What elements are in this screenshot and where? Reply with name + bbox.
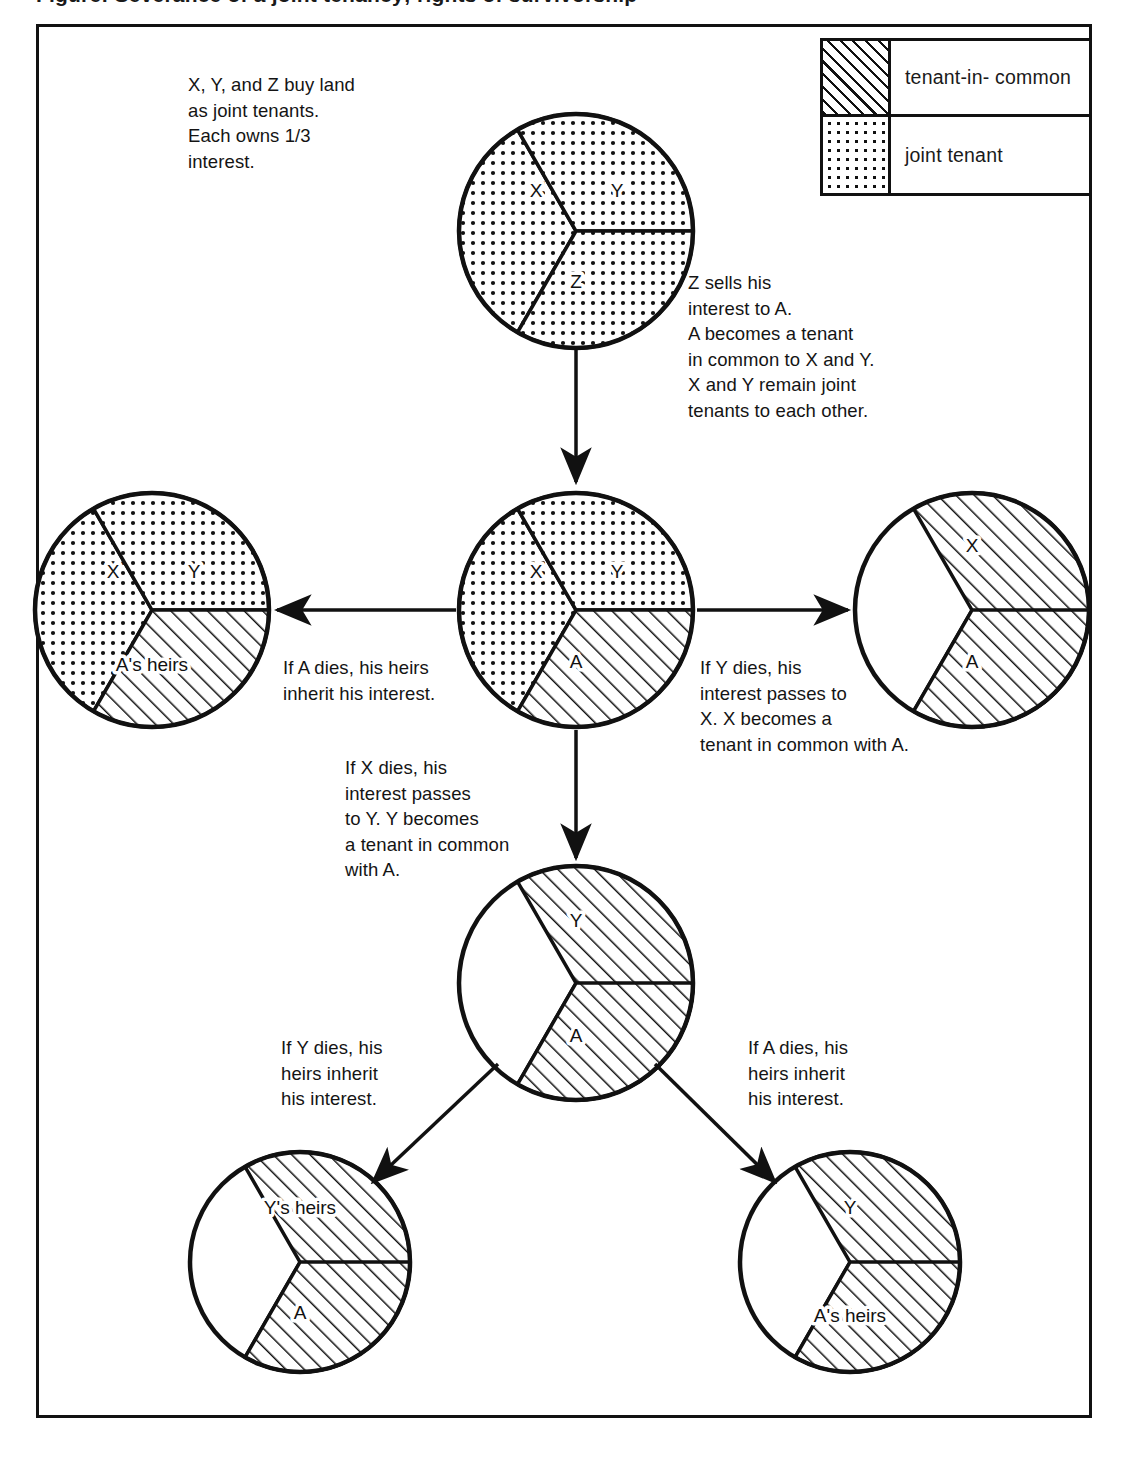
hatch-swatch-icon	[823, 41, 891, 114]
pie-slice-label: X	[530, 180, 543, 201]
note-z-sells: Z sells his interest to A. A becomes a t…	[688, 270, 978, 423]
pie-a-dies-heirs-inherit-2	[740, 1152, 960, 1372]
legend-row-joint-tenant: joint tenant	[823, 117, 1089, 193]
pie-slice-label: X	[966, 535, 979, 556]
pie-slice-a	[245, 1262, 410, 1372]
legend-label-tenant-in-common: tenant-in- common	[891, 41, 1089, 114]
pie-original-joint-tenancy	[459, 114, 693, 348]
pie-slice-label: A's heirs	[814, 1305, 886, 1326]
pie-slice-label: A	[570, 651, 583, 672]
legend-label-joint-tenant: joint tenant	[891, 117, 1089, 193]
pie-slice-a	[518, 983, 694, 1100]
pie-slice-label: Y	[570, 910, 583, 931]
pie-slice-label: Z	[570, 271, 582, 292]
note-a-dies-left: If A dies, his heirs inherit his interes…	[283, 655, 503, 706]
diagram-canvas: Figure: Severance of a joint tenancy; ri…	[0, 0, 1132, 1461]
pie-slice-label: X	[530, 561, 543, 582]
pie-slice-label: Y	[188, 561, 201, 582]
pie-a-dies-heirs-inherit	[35, 493, 269, 727]
note-intro: X, Y, and Z buy land as joint tenants. E…	[188, 72, 438, 174]
note-x-dies-down: If X dies, his interest passes to Y. Y b…	[345, 755, 595, 883]
pie-slice-label: A	[294, 1302, 307, 1323]
pie-slice-label: Y	[611, 561, 624, 582]
pie-slice-label: X	[107, 561, 120, 582]
pie-slice-label: Y	[611, 180, 624, 201]
pie-slice-label: A's heirs	[116, 654, 188, 675]
note-y-dies-right: If Y dies, his interest passes to X. X b…	[700, 655, 970, 757]
legend: tenant-in- common joint tenant	[820, 38, 1092, 196]
dot-swatch-icon	[823, 117, 891, 193]
note-y-dies-bottom-left: If Y dies, his heirs inherit his interes…	[281, 1035, 471, 1112]
legend-row-tenant-in-common: tenant-in- common	[823, 41, 1089, 117]
pie-slice-label: Y	[844, 1197, 857, 1218]
pie-slice-label: A	[570, 1025, 583, 1046]
pie-slice-label: Y's heirs	[264, 1197, 336, 1218]
pie-y-dies-heirs-inherit	[190, 1152, 410, 1372]
note-a-dies-bottom-right: If A dies, his heirs inherit his interes…	[748, 1035, 938, 1112]
